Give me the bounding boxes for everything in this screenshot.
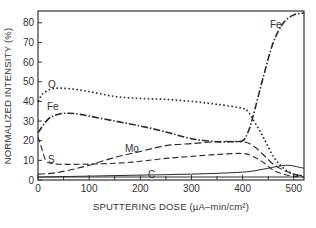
label-fe-top: Fe — [270, 19, 282, 30]
y-tick-label: 20 — [23, 135, 35, 146]
x-axis: 0100200300400500 — [35, 175, 304, 194]
curve-s — [38, 137, 304, 177]
y-tick-label: 60 — [23, 57, 35, 68]
y-axis-title: NORMALIZED INTENSITY (%) — [2, 28, 13, 165]
label-c: C — [148, 169, 155, 180]
y-tick-label: 70 — [23, 37, 35, 48]
x-tick-label: 0 — [35, 183, 41, 194]
y-tick-label: 0 — [28, 175, 34, 186]
label-o: O — [48, 79, 56, 90]
curve-c — [38, 165, 304, 177]
y-tick-label: 10 — [23, 155, 35, 166]
x-axis-title: SPUTTERING DOSE (µA–min/cm²) — [93, 201, 249, 212]
x-tick-label: 500 — [285, 183, 302, 194]
plot-border — [38, 11, 304, 180]
x-tick-label: 100 — [81, 183, 98, 194]
chart: 01020304050607080 0100200300400500 Fe O … — [0, 0, 316, 228]
y-tick-label: 40 — [23, 96, 35, 107]
curve-mo — [38, 141, 304, 176]
plot-frame — [38, 11, 304, 180]
y-tick-label: 80 — [23, 17, 35, 28]
x-tick-label: 200 — [132, 183, 149, 194]
label-mo: Mo — [125, 143, 139, 154]
series-curves — [38, 13, 304, 177]
curve-fe — [38, 13, 304, 142]
x-tick-label: 400 — [234, 183, 251, 194]
label-fe-left: Fe — [47, 101, 59, 112]
y-tick-label: 50 — [23, 76, 35, 87]
label-s: S — [48, 154, 55, 165]
y-tick-label: 30 — [23, 116, 35, 127]
y-axis: 01020304050607080 — [23, 17, 42, 185]
x-tick-label: 300 — [183, 183, 200, 194]
